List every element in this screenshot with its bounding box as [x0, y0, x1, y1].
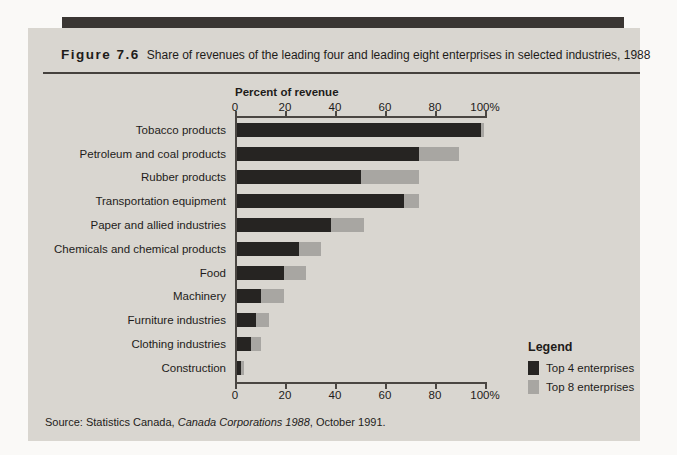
top4-swatch-icon: [528, 361, 539, 375]
legend-title: Legend: [528, 340, 634, 354]
bar-track: [235, 313, 497, 327]
bar-track: [235, 170, 497, 184]
legend-label-top4: Top 4 enterprises: [546, 362, 634, 374]
bar-track: [235, 123, 497, 137]
bar-track: [235, 218, 497, 232]
bar-row: Petroleum and coal products: [28, 142, 640, 166]
category-label: Chemicals and chemical products: [28, 243, 235, 255]
axis-tick-mark: [335, 111, 337, 116]
top8-swatch-icon: [528, 380, 539, 394]
top4-bar: [236, 266, 284, 280]
legend-item-top8: Top 8 enterprises: [528, 380, 634, 394]
axis-tick-mark: [435, 111, 437, 116]
bar-row: Furniture industries: [28, 308, 640, 332]
decorative-top-bar: [62, 17, 624, 28]
figure-number: Figure 7.6: [61, 47, 140, 62]
axis-tick-label: 60: [379, 389, 392, 401]
category-label: Paper and allied industries: [28, 219, 235, 231]
title-divider: [43, 72, 640, 74]
bar-track: [235, 147, 497, 161]
category-label: Rubber products: [28, 171, 235, 183]
legend: Legend Top 4 enterprises Top 8 enterpris…: [528, 340, 634, 399]
top4-bar: [236, 147, 419, 161]
category-label: Transportation equipment: [28, 195, 235, 207]
bar-track: [235, 242, 497, 256]
bar-row: Chemicals and chemical products: [28, 237, 640, 261]
axis-tick-label: 80: [429, 389, 442, 401]
bar-track: [235, 289, 497, 303]
top4-bar: [236, 337, 251, 351]
bar-row: Rubber products: [28, 166, 640, 190]
bottom-axis-labels: 020406080100%: [235, 389, 487, 402]
legend-item-top4: Top 4 enterprises: [528, 361, 634, 375]
bottom-axis-line: [235, 382, 487, 384]
source-suffix: , October 1991.: [310, 416, 386, 428]
bar-row: Tobacco products: [28, 118, 640, 142]
bar-row: Machinery: [28, 285, 640, 309]
category-label: Clothing industries: [28, 338, 235, 350]
figure-panel: Figure 7.6Share of revenues of the leadi…: [28, 28, 640, 441]
source-note: Source: Statistics Canada, Canada Corpor…: [45, 416, 386, 428]
y-axis-line: [235, 116, 237, 384]
axis-tick-label: 20: [279, 389, 292, 401]
category-label: Petroleum and coal products: [28, 148, 235, 160]
figure-title-text: Share of revenues of the leading four an…: [147, 48, 651, 62]
axis-tick-mark: [385, 111, 387, 116]
category-label: Food: [28, 267, 235, 279]
bar-track: [235, 337, 497, 351]
top4-bar: [236, 194, 404, 208]
source-citation: Canada Corporations 1988: [178, 416, 310, 428]
category-label: Furniture industries: [28, 314, 235, 326]
legend-label-top8: Top 8 enterprises: [546, 381, 634, 393]
top4-bar: [236, 313, 256, 327]
figure-title: Figure 7.6Share of revenues of the leadi…: [61, 47, 650, 62]
top4-bar: [236, 170, 361, 184]
top4-bar: [236, 123, 481, 137]
category-label: Machinery: [28, 290, 235, 302]
bar-row: Transportation equipment: [28, 189, 640, 213]
category-label: Construction: [28, 362, 235, 374]
bar-row: Food: [28, 261, 640, 285]
top-axis-labels: 020406080100%: [235, 101, 487, 114]
bar-row: Paper and allied industries: [28, 213, 640, 237]
axis-tick-mark: [485, 111, 487, 116]
axis-title: Percent of revenue: [235, 86, 339, 98]
bar-track: [235, 266, 497, 280]
category-label: Tobacco products: [28, 124, 235, 136]
axis-tick-mark: [285, 111, 287, 116]
top4-bar: [236, 218, 331, 232]
page: Figure 7.6Share of revenues of the leadi…: [0, 0, 677, 455]
axis-tick-label: 0: [232, 389, 238, 401]
bar-track: [235, 194, 497, 208]
axis-tick-label: 100%: [470, 389, 499, 401]
axis-tick-label: 40: [329, 389, 342, 401]
top4-bar: [236, 242, 299, 256]
top4-bar: [236, 289, 261, 303]
source-prefix: Source: Statistics Canada,: [45, 416, 178, 428]
bar-track: [235, 361, 497, 375]
